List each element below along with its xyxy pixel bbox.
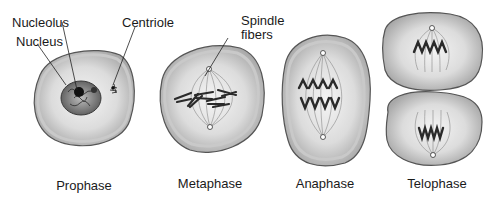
anaphase-cell (282, 35, 370, 166)
nucleolus-label: Nucleolus (12, 16, 69, 30)
telophase-cell (383, 13, 483, 166)
caption-telophase: Telophase (407, 176, 466, 191)
centriole-label: Centriole (122, 16, 174, 30)
nucleus (61, 81, 101, 115)
spindle-fibers-label-line1: Spindle (241, 14, 284, 28)
caption-anaphase: Anaphase (296, 176, 355, 191)
caption-prophase: Prophase (56, 178, 112, 193)
nucleus-label: Nucleus (16, 35, 63, 49)
metaphase-cell (160, 38, 264, 152)
mitosis-diagram: Nucleolus Nucleus Centriole Spindle fibe… (0, 0, 489, 198)
spindle-fibers-label-line2: fibers (241, 28, 273, 42)
nucleolus (74, 87, 84, 97)
caption-metaphase: Metaphase (178, 176, 242, 191)
